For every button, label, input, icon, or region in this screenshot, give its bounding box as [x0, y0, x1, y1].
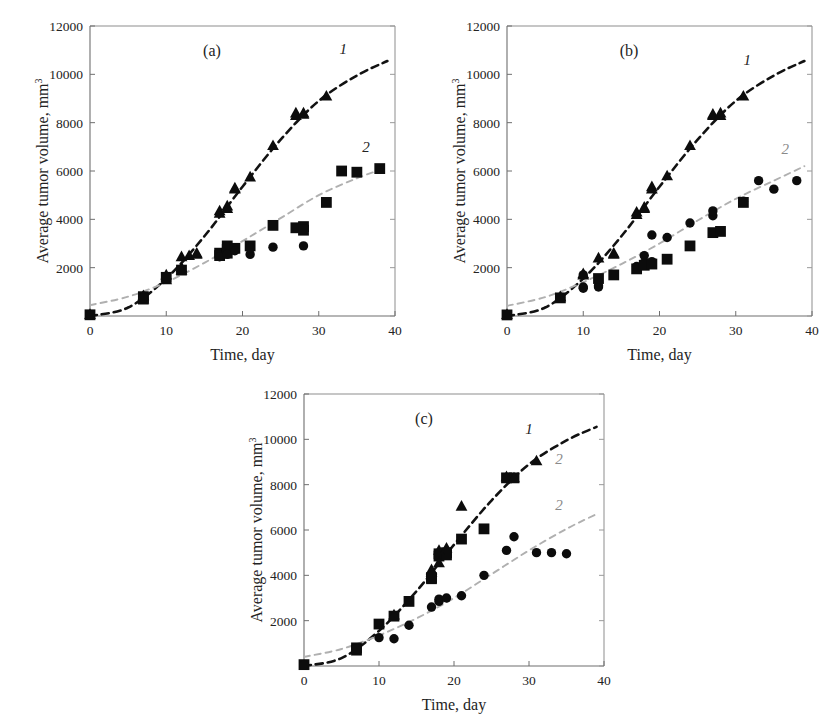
data-point-square [608, 270, 619, 281]
data-point-circle [352, 644, 361, 653]
data-point-square [502, 310, 513, 321]
x-tick-label: 30 [522, 673, 536, 688]
data-point-square [555, 292, 566, 303]
curve-label-1-0: 1 [743, 52, 751, 68]
data-point-triangle [229, 182, 241, 193]
plot-frame [507, 26, 812, 316]
y-tick-label: 12000 [49, 19, 83, 34]
panel-letter: (a) [203, 42, 221, 60]
data-point-circle [479, 571, 488, 580]
y-tick-label: 12000 [263, 387, 297, 402]
data-point-triangle [244, 171, 256, 182]
x-axis: 010203040 [301, 661, 611, 688]
data-point-circle [547, 548, 556, 557]
curve-label-2-1: 2 [362, 139, 370, 155]
chart-panel-c: 20004000600080001000012000010203040Time,… [200, 372, 630, 717]
x-axis: 010203040 [87, 311, 402, 338]
y-tick-label: 6000 [56, 164, 83, 179]
data-point-circle [139, 293, 148, 302]
y-tick-label: 10000 [466, 67, 500, 82]
svg-text:Average tumor volume, mm3: Average tumor volume, mm3 [450, 78, 469, 263]
y-tick-label: 8000 [270, 478, 297, 493]
data-point-square [336, 166, 347, 177]
y-tick-label: 10000 [49, 67, 83, 82]
y-tick-label: 4000 [473, 212, 500, 227]
y-tick-label: 4000 [56, 212, 83, 227]
x-tick-label: 10 [372, 673, 386, 688]
data-point-square [374, 163, 385, 174]
data-point-circle [374, 633, 383, 642]
x-axis-title: Time, day [422, 696, 486, 714]
panel-letter: (b) [620, 42, 639, 60]
data-point-circle [389, 634, 398, 643]
data-point-circle [427, 602, 436, 611]
data-point-triangle [267, 139, 279, 150]
x-axis-title: Time, day [627, 346, 691, 364]
x-tick-label: 30 [312, 323, 326, 338]
data-point-circle [509, 532, 518, 541]
curve-label-2-2: 2 [555, 497, 563, 513]
data-point-square [351, 167, 362, 178]
data-point-circle [708, 206, 717, 215]
chart-panel-a: 20004000600080001000012000010203040Time,… [0, 0, 412, 372]
data-point-square [161, 272, 172, 283]
data-point-circle [245, 244, 254, 253]
x-tick-label: 40 [805, 323, 819, 338]
y-tick-label: 6000 [473, 164, 500, 179]
data-point-square [404, 596, 415, 607]
data-point-triangle [661, 170, 673, 181]
y-tick-label: 4000 [270, 568, 297, 583]
svg-text:Average tumor volume, mm3: Average tumor volume, mm3 [33, 78, 52, 263]
x-tick-label: 20 [653, 323, 667, 338]
data-point-square [479, 523, 490, 534]
x-tick-label: 10 [577, 323, 591, 338]
data-point-triangle [593, 252, 605, 263]
data-point-square [374, 619, 385, 630]
data-point-square [321, 197, 332, 208]
data-point-square [298, 225, 309, 236]
x-axis: 010203040 [504, 311, 819, 338]
data-point-square [268, 220, 279, 231]
data-point-circle [579, 284, 588, 293]
data-point-square [456, 534, 467, 545]
curve-label-2-1: 2 [555, 451, 563, 467]
fit-curve-1 [90, 61, 387, 316]
data-point-circle [442, 593, 451, 602]
data-point-square [738, 197, 749, 208]
y-tick-label: 8000 [473, 116, 500, 131]
y-tick-label: 2000 [56, 261, 83, 276]
data-point-triangle [646, 181, 658, 192]
data-point-circle [562, 549, 571, 558]
data-point-circle [268, 242, 277, 251]
y-tick-label: 10000 [263, 432, 297, 447]
data-point-square [685, 241, 696, 252]
x-tick-label: 30 [729, 323, 743, 338]
x-axis-title: Time, day [210, 346, 274, 364]
data-point-square [646, 259, 657, 270]
chart-panel-b: 20004000600080001000012000010203040Time,… [412, 0, 829, 372]
x-tick-label: 0 [87, 323, 94, 338]
data-point-circle [685, 218, 694, 227]
x-tick-label: 0 [301, 673, 308, 688]
y-tick-label: 6000 [270, 523, 297, 538]
data-point-triangle [684, 139, 696, 150]
data-point-circle [502, 546, 511, 555]
fit-curve-2 [304, 514, 597, 657]
data-point-circle [579, 270, 588, 279]
data-point-circle [769, 184, 778, 193]
data-point-circle [457, 591, 466, 600]
data-point-circle [754, 176, 763, 185]
plot-frame [90, 26, 395, 316]
data-point-triangle [456, 500, 468, 511]
y-tick-label: 12000 [466, 19, 500, 34]
x-tick-label: 20 [447, 673, 461, 688]
curve-label-1-0: 1 [339, 41, 347, 57]
data-point-circle [404, 621, 413, 630]
data-point-square [662, 254, 673, 265]
panel-letter: (c) [415, 410, 433, 428]
y-tick-label: 2000 [473, 261, 500, 276]
data-point-circle [85, 310, 94, 319]
curve-label-1-0: 1 [525, 421, 533, 437]
figure-canvas: 20004000600080001000012000010203040Time,… [0, 0, 829, 717]
plot-frame [304, 394, 604, 666]
